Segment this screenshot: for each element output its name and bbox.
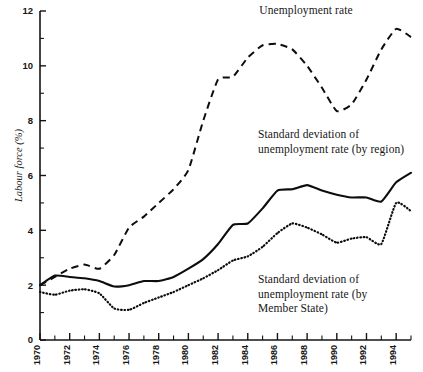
x-tick-label: 1992 [358, 345, 368, 365]
annotation-stddev-by-region: Standard deviation of unemployment rate … [258, 127, 423, 156]
y-axis-ticks [40, 11, 46, 340]
annotation-stddev-by-member-state: Standard deviation of unemployment rate … [258, 272, 418, 316]
y-tick-label: 0 [28, 334, 33, 345]
x-tick-label: 1978 [151, 345, 161, 365]
x-tick-label: 1982 [210, 345, 220, 365]
x-axis-ticks [40, 333, 411, 340]
annotation-unemployment-rate: Unemployment rate [206, 3, 406, 18]
x-tick-label: 1970 [32, 345, 42, 365]
series-line-solid [40, 173, 411, 287]
chart-container: Labour force (%) 024681012 1970197219741… [0, 0, 423, 372]
x-tick-label: 1986 [269, 345, 279, 365]
chart-plot-area: 024681012 197019721974197619781980198219… [0, 0, 423, 372]
series-line-dashed [40, 29, 411, 285]
x-tick-label: 1974 [91, 345, 101, 365]
y-axis-tick-labels: 024681012 [22, 5, 33, 345]
y-tick-label: 6 [28, 170, 33, 181]
x-tick-label: 1984 [240, 345, 250, 365]
y-tick-label: 2 [28, 280, 33, 291]
x-tick-label: 1988 [299, 345, 309, 365]
x-tick-label: 1994 [388, 345, 398, 365]
x-tick-label: 1976 [121, 345, 131, 365]
x-tick-label: 1980 [180, 345, 190, 365]
x-axis-tick-labels: 1970197219741976197819801982198419861988… [32, 345, 398, 365]
y-tick-label: 8 [28, 115, 33, 126]
chart-series-group [40, 29, 411, 310]
y-tick-label: 4 [28, 225, 34, 236]
x-tick-label: 1972 [62, 345, 72, 365]
y-tick-label: 10 [22, 60, 33, 71]
x-tick-label: 1990 [329, 345, 339, 365]
y-tick-label: 12 [22, 5, 33, 16]
